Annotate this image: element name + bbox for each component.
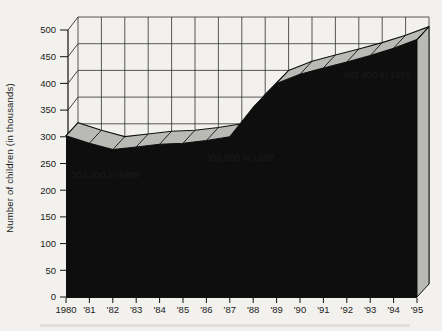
y-tick-label: 0 <box>51 291 56 302</box>
x-tick-label: '90 <box>294 304 306 315</box>
x-tick-label: '94 <box>387 304 399 315</box>
scan-artifacts <box>40 324 410 327</box>
x-tick-label: '86 <box>200 304 212 315</box>
x-tick-label: '85 <box>177 304 189 315</box>
y-tick-label: 450 <box>40 51 56 62</box>
x-tick-label: '84 <box>153 304 165 315</box>
x-tick-label: '81 <box>83 304 95 315</box>
y-tick-label: 200 <box>40 185 56 196</box>
x-tick-label: '83 <box>130 304 142 315</box>
right-side-face <box>417 27 429 297</box>
y-axis-title: Number of children (in thousands) <box>4 83 15 233</box>
y-tick-label: 100 <box>40 238 56 249</box>
y-axis-title: Number of children (in thousands) <box>4 83 15 233</box>
y-tick-label: 500 <box>40 24 56 35</box>
x-tick-label: '88 <box>247 304 259 315</box>
scan-smudge <box>40 324 410 327</box>
x-tick-label: '93 <box>364 304 376 315</box>
x-tick-label: '91 <box>317 304 329 315</box>
y-tick-label: 250 <box>40 158 56 169</box>
x-tick-label: 1980 <box>55 304 76 315</box>
x-axis: 1980'81'82'83'84'85'86'87'88'89'90'91'92… <box>55 298 423 316</box>
y-tick-label: 350 <box>40 104 56 115</box>
area-chart: 050100150200250300350400450500Number of … <box>0 0 442 331</box>
x-tick-label: '87 <box>224 304 236 315</box>
x-tick-label: '92 <box>341 304 353 315</box>
y-tick-label: 50 <box>45 265 56 276</box>
x-tick-label: '89 <box>270 304 282 315</box>
annotation-label: 482,000 in 1995 <box>343 69 411 80</box>
y-tick-label: 400 <box>40 78 56 89</box>
scanned-chart-page: 050100150200250300350400450500Number of … <box>0 0 442 331</box>
x-tick-label: '95 <box>411 304 423 315</box>
y-tick-label: 150 <box>40 211 56 222</box>
x-tick-label: '82 <box>107 304 119 315</box>
annotation-label: 300,000 in 1987 <box>206 152 274 163</box>
y-tick-label: 300 <box>40 131 56 142</box>
annotation-label: 302,000 in 1980 <box>71 169 139 180</box>
